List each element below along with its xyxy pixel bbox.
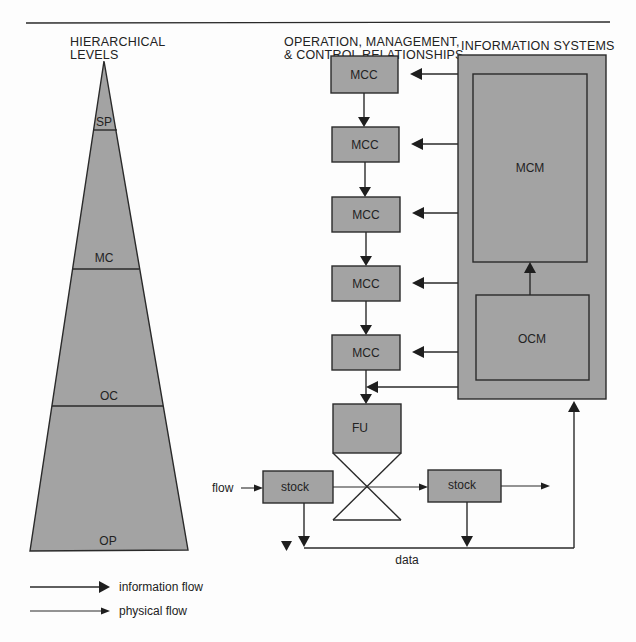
level-oc: OC	[100, 389, 118, 403]
stock-label-right: stock	[448, 478, 477, 492]
ocm-label: OCM	[518, 332, 546, 346]
level-op: OP	[99, 534, 116, 548]
stock-label-left: stock	[281, 480, 310, 494]
mcc-label-1: MCC	[350, 68, 378, 82]
flow-label: flow	[212, 481, 234, 495]
legend-information-flow-arrow	[30, 581, 110, 593]
hierarchy-pyramid	[30, 61, 188, 551]
header-information-systems: INFORMATION SYSTEMS	[461, 39, 615, 53]
legend-physical-flow-arrow	[30, 608, 110, 615]
mcm-label: MCM	[516, 161, 545, 175]
header-operation-line1: OPERATION, MANAGEMENT,	[284, 35, 460, 49]
data-label: data	[395, 553, 419, 567]
top-rule	[26, 22, 610, 23]
legend-information-flow-label: information flow	[119, 580, 203, 594]
mcc-label-4: MCC	[352, 277, 380, 291]
legend-physical-flow-label: physical flow	[119, 604, 187, 618]
level-sp: SP	[96, 115, 112, 129]
diagram-canvas: HIERARCHICAL LEVELS OPERATION, MANAGEMEN…	[0, 0, 636, 642]
header-hierarchical-line2: LEVELS	[70, 48, 118, 62]
fu-label: FU	[352, 421, 368, 435]
mcc-label-3: MCC	[352, 208, 380, 222]
physical-flow-in-arrow	[241, 485, 263, 492]
physical-flow-out-arrow	[501, 483, 550, 490]
header-hierarchical-line1: HIERARCHICAL	[70, 35, 165, 49]
mcc-label-2: MCC	[351, 138, 379, 152]
physical-flow-middle-arrow	[333, 484, 428, 491]
mcc-label-5: MCC	[352, 346, 380, 360]
level-mc: MC	[95, 251, 114, 265]
